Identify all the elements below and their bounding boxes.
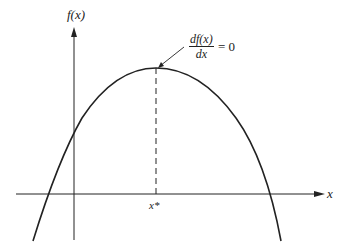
derivative-numerator: df(x) — [189, 33, 214, 47]
annotation-leader-line — [160, 47, 184, 66]
function-curve — [33, 68, 281, 241]
derivative-equals-zero: = 0 — [218, 40, 235, 53]
derivative-denominator: dx — [189, 47, 214, 60]
derivative-fraction: df(x) dx — [189, 33, 214, 60]
diagram-graphics — [0, 0, 350, 251]
x-axis-arrow-icon — [314, 191, 325, 197]
optimum-label: x* — [149, 200, 159, 211]
y-axis-label: f(x) — [67, 8, 85, 21]
annotation-arrow-icon — [158, 62, 164, 68]
y-axis-arrow-icon — [71, 27, 77, 37]
diagram-canvas: f(x) x x* df(x) dx = 0 — [0, 0, 350, 251]
x-axis-label: x — [327, 187, 333, 200]
